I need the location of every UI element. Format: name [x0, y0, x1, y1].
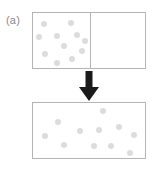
particle — [116, 124, 122, 130]
particle — [77, 128, 83, 134]
divided-container — [32, 12, 146, 69]
free-expansion-figure: (a) — [0, 0, 155, 170]
particle — [42, 133, 48, 139]
partition-divider — [90, 13, 91, 68]
arrow-down-icon — [78, 71, 100, 101]
expanded-container — [32, 102, 146, 159]
particle — [91, 143, 97, 149]
downward-transition-arrow — [78, 71, 100, 101]
particle — [36, 34, 42, 40]
particle — [61, 142, 67, 148]
panel-label: (a) — [6, 14, 20, 27]
particle — [61, 43, 67, 49]
particle — [96, 127, 102, 133]
particle — [42, 51, 48, 57]
particle — [68, 20, 74, 26]
particle — [131, 132, 137, 138]
particle — [55, 119, 61, 125]
particle — [54, 60, 60, 66]
particle — [82, 38, 88, 44]
particle — [41, 21, 47, 27]
particle — [79, 48, 85, 54]
particle — [108, 143, 114, 149]
particle — [54, 33, 60, 39]
particle — [127, 150, 133, 156]
particle — [74, 32, 80, 38]
particle — [69, 56, 75, 62]
particle — [100, 108, 106, 114]
